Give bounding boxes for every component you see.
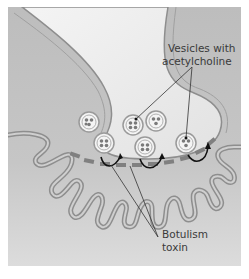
leader-dot: [135, 118, 138, 121]
leader-dot: [185, 137, 188, 140]
vesicles-label-line1: Vesicles with: [168, 42, 235, 54]
vesicles-label-line2: acetylcholine: [162, 55, 232, 67]
neuromuscular-junction-diagram: Vesicles with acetylcholine Botulism tox…: [8, 7, 241, 266]
toxin-label-line1: Botulism: [162, 228, 208, 240]
toxin-label-line2: toxin: [162, 241, 188, 253]
diagram-panel: Vesicles with acetylcholine Botulism tox…: [8, 7, 241, 266]
